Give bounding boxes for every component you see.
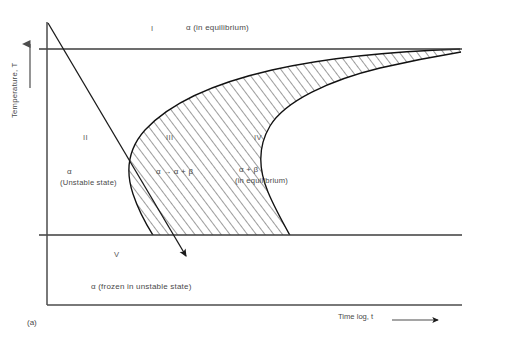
transformation-band-hatched [129, 49, 461, 254]
region-label-iv-line1: α + β [239, 165, 258, 176]
region-label-ii-line1: α [67, 167, 72, 178]
region-label-iii-text: α → α + β [156, 167, 193, 178]
region-label-v-text: α (frozen in unstable state) [91, 282, 192, 293]
ttt-diagram-figure: I α (in equilibrium) II α (Unstable stat… [0, 0, 508, 349]
region-label-iv-numeral: IV [254, 133, 262, 143]
y-axis-label: Temperature, T [10, 0, 19, 118]
region-label-v-numeral: V [114, 250, 119, 260]
figure-caption: (a) [27, 318, 37, 327]
x-axis-label: Time log, t [338, 312, 373, 321]
region-label-i-text: α (in equilibrium) [186, 23, 249, 34]
region-label-ii-line2: (Unstable state) [60, 178, 117, 188]
region-label-iv-line2: (in equilibrium) [235, 176, 288, 186]
region-label-i-numeral: I [151, 24, 154, 34]
region-label-iii-numeral: III [166, 133, 174, 143]
region-label-ii-numeral: II [83, 133, 88, 143]
